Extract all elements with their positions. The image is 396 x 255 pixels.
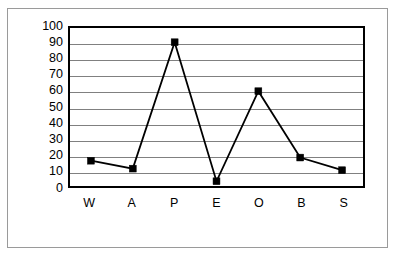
data-point-marker-s xyxy=(339,167,346,174)
y-tick-label-10: 10 xyxy=(5,165,63,178)
x-tick-label-o: O xyxy=(254,196,264,210)
y-tick-label-30: 30 xyxy=(5,133,63,146)
y-tick-label-80: 80 xyxy=(5,52,63,65)
y-tick-label-20: 20 xyxy=(5,149,63,162)
x-tick-label-e: E xyxy=(212,196,220,210)
x-tick-label-b: B xyxy=(297,196,305,210)
series-line xyxy=(91,42,342,181)
line-series-svg xyxy=(70,28,363,186)
data-point-marker-b xyxy=(297,154,304,161)
y-tick-label-100: 100 xyxy=(5,20,63,33)
plot-area xyxy=(68,26,365,188)
y-tick-label-50: 50 xyxy=(5,101,63,114)
x-tick-label-p: P xyxy=(170,196,178,210)
y-tick-label-70: 70 xyxy=(5,68,63,81)
y-tick-label-90: 90 xyxy=(5,36,63,49)
x-tick-label-a: A xyxy=(127,196,135,210)
data-point-marker-p xyxy=(171,39,178,46)
data-point-marker-e xyxy=(213,178,220,185)
data-point-marker-w xyxy=(87,157,94,164)
data-point-marker-o xyxy=(255,88,262,95)
plot-inner xyxy=(70,28,363,186)
x-axis-tick-labels: WAPEOBS xyxy=(68,196,365,218)
x-tick-label-w: W xyxy=(83,196,95,210)
y-tick-label-40: 40 xyxy=(5,117,63,130)
y-axis-tick-labels: 0102030405060708090100 xyxy=(0,26,63,188)
chart-figure: 0102030405060708090100 WAPEOBS xyxy=(0,0,396,255)
x-tick-label-s: S xyxy=(340,196,348,210)
y-tick-label-0: 0 xyxy=(5,182,63,195)
data-point-marker-a xyxy=(129,165,136,172)
y-tick-label-60: 60 xyxy=(5,84,63,97)
